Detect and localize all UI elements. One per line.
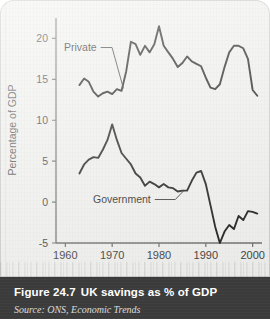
- y-tick-label: -5: [39, 237, 48, 249]
- figure-caption: Figure 24.7UK savings as % of GDP: [14, 286, 264, 299]
- series-line-government: [79, 124, 257, 243]
- x-tick-label: 1970: [100, 249, 124, 261]
- x-tick-label: 1960: [53, 249, 77, 261]
- annotation-label-government: Government: [93, 193, 151, 205]
- y-tick-label: 5: [42, 155, 48, 167]
- figure-title: UK savings as % of GDP: [81, 286, 217, 298]
- x-axis-ticks: 19601970198019902000: [53, 243, 265, 261]
- private-leader-line: [101, 48, 124, 89]
- x-tick-label: 1980: [147, 249, 171, 261]
- y-axis-ticks: 20151050-5: [36, 32, 56, 249]
- annotation-label-private: Private: [64, 41, 97, 53]
- y-axis-title: Percentage of GDP: [6, 84, 18, 175]
- figure-number: Figure 24.7: [14, 286, 76, 298]
- line-chart: 20151050-5 19601970198019902000 Percenta…: [0, 0, 270, 277]
- figure-container: 20151050-5 19601970198019902000 Percenta…: [0, 0, 270, 319]
- x-tick-label: 2000: [240, 249, 264, 261]
- y-tick-label: 10: [36, 114, 48, 126]
- y-tick-label: 0: [42, 196, 48, 208]
- caption-band: Figure 24.7UK savings as % of GDP Source…: [0, 277, 270, 319]
- x-tick-label: 1990: [194, 249, 218, 261]
- chart-panel: 20151050-5 19601970198019902000 Percenta…: [0, 0, 270, 277]
- figure-source: Source: ONS, Economic Trends: [14, 304, 264, 316]
- y-tick-label: 15: [36, 73, 48, 85]
- y-tick-label: 20: [36, 32, 48, 44]
- series-line-private: [79, 26, 257, 96]
